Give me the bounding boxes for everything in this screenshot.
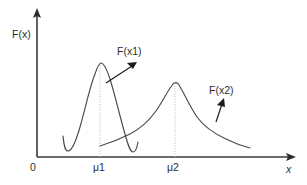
y-axis (33, 8, 41, 157)
y-axis-label: F(x) (12, 28, 31, 40)
x-axis (37, 153, 296, 161)
probability-density-figure: F(x) x 0 μ1 μ2 F(x1) F(x2) (0, 0, 307, 185)
x-tick-label-mu2: μ2 (167, 161, 179, 173)
annotation-label-f-x1: F(x1) (117, 45, 142, 57)
callout-arrow-f-x2 (216, 98, 225, 122)
annotation-label-f-x2: F(x2) (209, 84, 234, 96)
x-tick-label-mu1: μ1 (93, 161, 105, 173)
x-axis-label: x (286, 163, 291, 175)
callout-arrow-f-x1 (106, 62, 137, 83)
origin-label: 0 (30, 161, 36, 173)
